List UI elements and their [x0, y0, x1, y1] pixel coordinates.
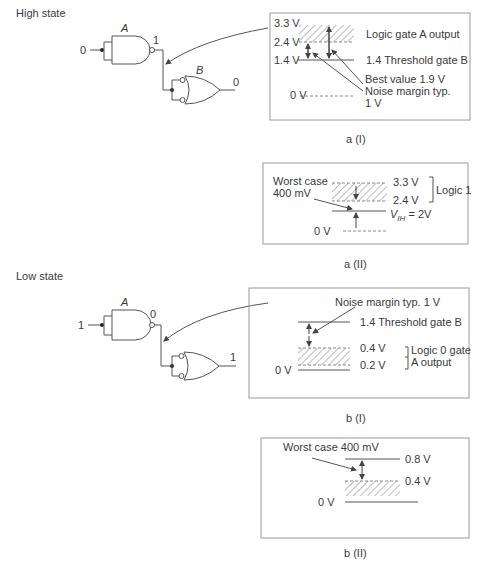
best-value-label: Best value 1.9 V	[365, 73, 446, 85]
level-0v: 0 V	[290, 89, 307, 101]
worst-case-value: 400 mV	[273, 187, 312, 199]
input-a-value: 0	[80, 44, 86, 56]
logic-0-label: Logic 0 gate	[411, 344, 471, 356]
or-gate-b	[185, 76, 220, 104]
nand-gate-a	[112, 310, 151, 340]
level-0v: 0 V	[314, 225, 331, 237]
noise-margin-diagram: High state A B 0 1 0	[0, 0, 480, 573]
level-2-4v: 2.4 V	[274, 36, 300, 48]
junction-dot	[100, 48, 104, 52]
level-2-4v: 2.4 V	[393, 194, 419, 206]
output-b-value: 0	[233, 76, 239, 88]
noise-margin-label: Noise margin typ. 1 V	[335, 296, 441, 308]
level-3-3v: 3.3 V	[274, 17, 300, 29]
noise-margin-label: Noise margin typ.	[365, 85, 451, 97]
level-1-4v: 1.4 V	[274, 54, 300, 66]
nand-gate-a	[112, 36, 150, 64]
output-a-value: 0	[150, 308, 156, 320]
panel-b2: Worst case 400 mV 0.8 V 0.4 V 0 V	[261, 438, 469, 538]
level-0-8v: 0.8 V	[405, 453, 431, 465]
level-3-3v: 3.3 V	[393, 176, 419, 188]
worst-case-label: Worst case	[273, 175, 328, 187]
vih-label: VIH = 2V	[390, 208, 432, 223]
level-0v: 0 V	[318, 496, 335, 508]
panel-b1: Noise margin typ. 1 V 1.4 Threshold gate…	[249, 288, 471, 398]
caption-a2: a (II)	[344, 258, 367, 270]
input-a-value: 1	[78, 319, 84, 331]
noise-margin-value: 1 V	[365, 97, 382, 109]
low-state-title: Low state	[16, 270, 63, 282]
or-gate-b	[184, 352, 219, 380]
caption-a1: a (I)	[346, 133, 366, 145]
caption-b1: b (I)	[346, 412, 366, 424]
level-0-4v: 0.4 V	[360, 342, 386, 354]
logic-1-label: Logic 1	[436, 184, 471, 196]
level-0-4v: 0.4 V	[405, 475, 431, 487]
caption-b2: b (II)	[344, 547, 367, 559]
level-0-2v: 0.2 V	[360, 359, 386, 371]
gate-b-label: B	[196, 64, 203, 76]
worst-case-label: Worst case 400 mV	[283, 441, 379, 453]
gate-a-output-label: Logic gate A output	[366, 28, 460, 40]
low-state-circuit	[88, 303, 268, 380]
gate-a-label: A	[120, 22, 128, 34]
output-a-value: 1	[153, 34, 159, 46]
threshold-label: 1.4 Threshold gate B	[366, 54, 468, 66]
level-0v: 0 V	[275, 364, 292, 376]
panel-a1: 3.3 V 2.4 V 1.4 V 0 V Logic gate A outpu…	[270, 13, 470, 120]
logic-0-label-2: A output	[411, 356, 451, 368]
high-state-title: High state	[16, 7, 66, 19]
threshold-label: 1.4 Threshold gate B	[360, 316, 462, 328]
high-state-circuit	[90, 28, 268, 104]
output-b-value: 1	[230, 351, 236, 363]
gate-a-label: A	[120, 296, 128, 308]
panel-a2: Worst case 400 mV 3.3 V 2.4 V Logic 1 VI…	[263, 163, 471, 244]
